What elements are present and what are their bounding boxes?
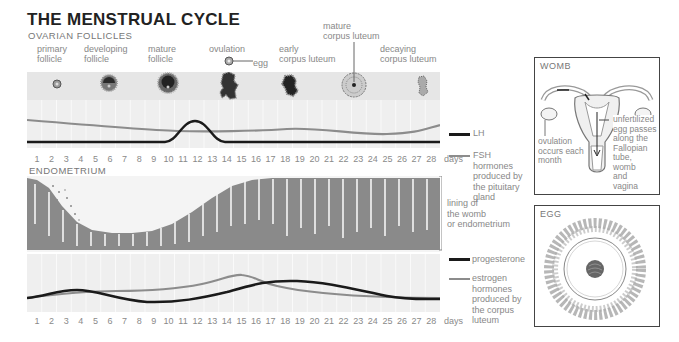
page-title: THE MENSTRUAL CYCLE [27, 10, 240, 30]
ovarian-legend-text: estrogen hormones produced by the corpus… [472, 273, 522, 326]
day-axis-bottom: 1234567891011121314151617181920212223242… [30, 316, 470, 328]
egg-illustration [535, 206, 659, 326]
egg-panel: EGG [534, 205, 660, 327]
follicle-label-mature-corpus-luteum: maturecorpus luteum [323, 21, 380, 41]
womb-panel: WOMB ovulation occurs each month unferti… [534, 57, 660, 195]
progesterone-legend-swatch [449, 258, 470, 261]
progesterone-legend-label: progesterone [472, 254, 525, 265]
endometrium-legend-text: lining of the womb or endometrium [447, 198, 510, 230]
fsh-line [27, 120, 440, 134]
endometrium-illustration [27, 176, 442, 254]
estrogen-legend-swatch [449, 278, 470, 280]
follicle-label-mature: maturefollicle [148, 44, 176, 64]
endometrium-heading: ENDOMETRIUM [29, 165, 106, 176]
egg-callout [222, 54, 257, 70]
ovarian-hormone-chart [27, 254, 440, 314]
fsh-legend-swatch [449, 155, 470, 157]
pituitary-hormone-chart [27, 100, 440, 150]
follicle-label-developing: developingfollicle [84, 44, 128, 64]
follicle-label-ovulation: ovulation [209, 44, 245, 54]
ovulation-follicle-icon [220, 72, 238, 99]
mature-follicle-icon [158, 73, 178, 93]
developing-follicle-icon [101, 75, 117, 91]
lh-legend-swatch [449, 133, 470, 136]
follicle-label-primary: primaryfollicle [37, 44, 67, 64]
pituitary-legend-text: FSH hormones produced by the pituitary g… [473, 150, 523, 203]
primary-follicle-icon [53, 80, 61, 88]
lh-legend-label: LH [473, 128, 485, 139]
follicle-label-early-corpus-luteum: earlycorpus luteum [279, 44, 336, 64]
egg-path-note: unfertilized egg passes along the Fallop… [613, 115, 656, 191]
ovarian-follicles-heading: OVARIAN FOLLICLES [28, 30, 132, 41]
ovulation-note: ovulation occurs each month [538, 137, 584, 166]
mature-corpus-luteum-pointer [352, 42, 356, 82]
days-unit-label: days [444, 316, 463, 326]
follicle-label-decaying-corpus-luteum: decayingcorpus luteum [380, 44, 437, 64]
